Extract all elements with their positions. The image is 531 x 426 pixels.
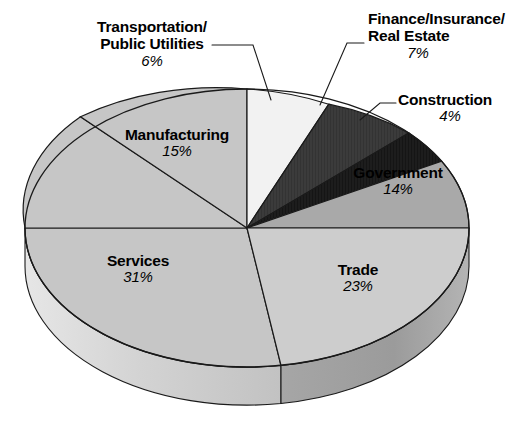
slice-label-government-line1: Government (336, 164, 460, 181)
slice-label-construction-line1: Construction (398, 91, 526, 108)
slice-label-trade: Trade 23% (318, 261, 398, 295)
slice-value-construction: 4% (398, 108, 502, 125)
slice-label-construction: Construction 4% (398, 91, 526, 125)
slice-label-services-line1: Services (88, 252, 188, 269)
slice-value-trade: 23% (318, 278, 398, 295)
slice-label-transportation-line1: Transportation/ (52, 18, 252, 35)
slice-value-finance: 7% (368, 45, 468, 62)
slice-label-manufacturing-line1: Manufacturing (106, 126, 248, 143)
slice-label-government: Government 14% (336, 164, 460, 198)
slice-label-services: Services 31% (88, 252, 188, 286)
pie-chart: Transportation/ Public Utilities 6% Fina… (0, 0, 531, 426)
slice-value-manufacturing: 15% (106, 143, 248, 160)
pie-slice-services[interactable] (25, 228, 281, 367)
slice-value-transportation: 6% (52, 53, 252, 70)
slice-label-trade-line1: Trade (318, 261, 398, 278)
leader-line-finance (320, 43, 364, 105)
slice-label-finance: Finance/Insurance/ Real Estate 7% (368, 10, 528, 62)
slice-label-finance-line2: Real Estate (368, 27, 528, 44)
slice-value-services: 31% (88, 269, 188, 286)
slice-label-transportation-line2: Public Utilities (52, 35, 252, 52)
slice-label-finance-line1: Finance/Insurance/ (368, 10, 528, 27)
slice-label-manufacturing: Manufacturing 15% (106, 126, 248, 160)
slice-label-transportation: Transportation/ Public Utilities 6% (52, 18, 252, 70)
pie-slice-trade[interactable] (247, 228, 469, 366)
slice-value-government: 14% (336, 181, 460, 198)
